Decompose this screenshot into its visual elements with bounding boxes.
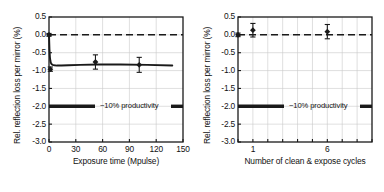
y-tick-label: -1.5 <box>221 83 235 93</box>
x-tick-label: 6 <box>307 144 347 154</box>
y-tick-label: 0.0 <box>224 29 235 39</box>
y-tick-label: 0.5 <box>35 11 46 21</box>
y-tick-label: -2.0 <box>221 101 235 111</box>
y-tick-label: -1.0 <box>221 65 235 75</box>
figure-root: Rel. reflection loss per mirror (%) Expo… <box>0 0 384 192</box>
right-plot-canvas <box>192 0 384 192</box>
y-tick-label: -0.5 <box>32 47 46 57</box>
x-tick-label: 1 <box>233 144 273 154</box>
chart-panel-right: Rel. reflection loss per mirror (%) Numb… <box>192 0 384 192</box>
y-tick-label: -2.5 <box>221 119 235 129</box>
chart-panel-left: Rel. reflection loss per mirror (%) Expo… <box>0 0 192 192</box>
y-tick-label: -2.5 <box>32 119 46 129</box>
right-productivity-label: −10% productivity <box>289 101 347 110</box>
y-tick-label: 0.0 <box>35 29 46 39</box>
y-tick-label: -0.5 <box>221 47 235 57</box>
left-plot-canvas <box>0 0 192 192</box>
y-tick-label: -1.0 <box>32 65 46 75</box>
left-productivity-label: −10% productivity <box>100 101 158 110</box>
y-tick-label: -1.5 <box>32 83 46 93</box>
y-tick-label: -2.0 <box>32 101 46 111</box>
y-tick-label: 0.5 <box>224 11 235 21</box>
